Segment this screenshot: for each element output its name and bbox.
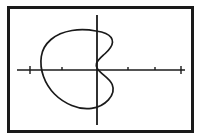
figure-container: A hand-drawn closed blob-like curve cent… xyxy=(0,0,201,140)
coordinate-figure xyxy=(0,0,201,140)
